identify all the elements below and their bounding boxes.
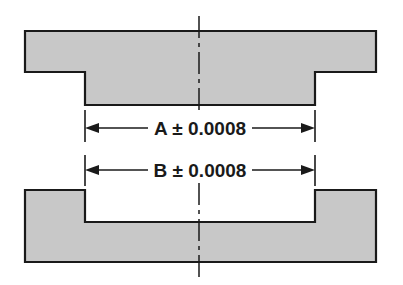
dimension-a-label: A ± 0.0008 bbox=[154, 118, 246, 139]
dimension-b: B ± 0.0008 bbox=[85, 155, 315, 186]
dimension-a: A ± 0.0008 bbox=[85, 110, 315, 142]
dimension-b-arrow-left-icon bbox=[85, 165, 99, 175]
dimension-a-arrow-right-icon bbox=[301, 123, 315, 133]
technical-drawing-canvas: A ± 0.0008 B ± 0.0008 bbox=[0, 0, 403, 285]
tongue-part-outline bbox=[25, 31, 376, 105]
dimension-b-arrow-right-icon bbox=[301, 165, 315, 175]
slot-part-outline bbox=[25, 190, 376, 262]
dimension-a-arrow-left-icon bbox=[85, 123, 99, 133]
dimension-b-label: B ± 0.0008 bbox=[154, 160, 247, 181]
